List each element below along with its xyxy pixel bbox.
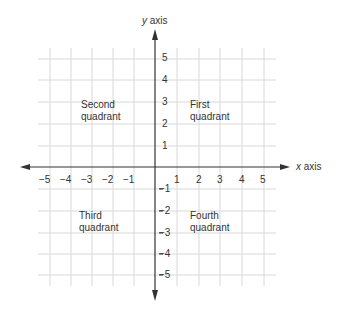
y-axis-up-arrow-icon [152, 29, 158, 40]
quadrant-label-second: Second quadrant [81, 99, 120, 123]
x-axis-word: axis [304, 161, 322, 172]
y-tick-label: −4 [159, 248, 170, 259]
y-tick-label: 1 [162, 140, 168, 151]
y-tick-label: −2 [159, 205, 170, 216]
y-axis-word: axis [150, 15, 168, 26]
x-axis-label: x axis [296, 161, 322, 172]
x-tick-label: −3 [81, 174, 92, 185]
x-tick-label: −2 [102, 174, 113, 185]
x-tick-label: −5 [39, 174, 50, 185]
quadrant-label-first: First quadrant [190, 99, 229, 123]
x-tick-label: 5 [260, 174, 266, 185]
x-tick-label: 2 [196, 174, 202, 185]
x-axis-variable: x [296, 161, 301, 172]
x-tick-label: 3 [217, 174, 223, 185]
y-tick-label: 3 [162, 96, 168, 107]
x-tick-label: 1 [174, 174, 180, 185]
y-axis-down-arrow-icon [152, 290, 158, 301]
y-axis-label: y axis [142, 15, 168, 26]
y-axis-variable: y [142, 15, 147, 26]
x-tick-label: −1 [123, 174, 134, 185]
quadrant-label-fourth: Fourth quadrant [190, 210, 229, 234]
y-tick-label: −1 [159, 183, 170, 194]
x-tick-label: 4 [239, 174, 245, 185]
y-tick-label: −3 [159, 227, 170, 238]
y-tick-label: −5 [159, 269, 170, 280]
x-tick-label: −4 [60, 174, 71, 185]
quadrant-label-third: Third quadrant [79, 210, 118, 234]
x-axis-right-arrow-icon [280, 164, 290, 170]
y-tick-label: 4 [162, 74, 168, 85]
y-tick-label: 5 [162, 52, 168, 63]
x-axis-left-arrow-icon [20, 164, 30, 170]
y-tick-label: 2 [162, 118, 168, 129]
